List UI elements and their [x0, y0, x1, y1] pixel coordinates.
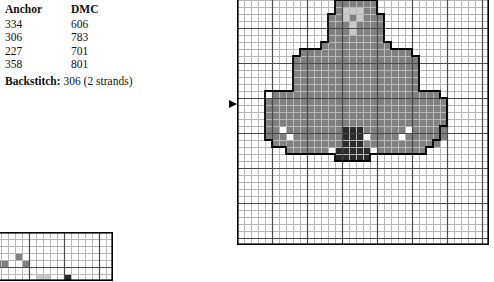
main-pattern-chart[interactable]	[237, 0, 489, 245]
thread-legend: Anchor DMC 334606306783227701358801 Back…	[5, 4, 205, 87]
table-header-row: Anchor DMC	[5, 4, 161, 18]
backstitch-label: Backstitch:	[5, 75, 61, 87]
table-row: 306783	[5, 31, 161, 45]
row-marker-arrow-icon	[229, 100, 237, 108]
column-header-dmc: DMC	[71, 4, 161, 18]
cell-dmc: 801	[71, 58, 161, 72]
thread-legend-head: Anchor DMC	[5, 4, 161, 18]
cell-dmc: 606	[71, 18, 161, 32]
cell-dmc: 701	[71, 45, 161, 59]
thread-legend-body: 334606306783227701358801	[5, 18, 161, 72]
table-row: 358801	[5, 58, 161, 72]
backstitch-note: Backstitch: 306 (2 strands)	[5, 75, 205, 87]
table-row: 334606	[5, 18, 161, 32]
table-row: 227701	[5, 45, 161, 59]
backstitch-value: 306 (2 strands)	[63, 75, 132, 87]
cell-anchor: 358	[5, 58, 71, 72]
cell-anchor: 306	[5, 31, 71, 45]
cell-anchor: 334	[5, 18, 71, 32]
cell-anchor: 227	[5, 45, 71, 59]
thread-legend-table: Anchor DMC 334606306783227701358801	[5, 4, 161, 72]
secondary-chart-canvas	[0, 232, 113, 281]
main-chart-canvas	[237, 0, 489, 245]
column-header-anchor: Anchor	[5, 4, 71, 18]
secondary-pattern-chart[interactable]	[0, 232, 113, 281]
cell-dmc: 783	[71, 31, 161, 45]
